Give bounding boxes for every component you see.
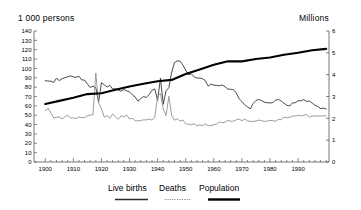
right-tick-label: 0: [332, 159, 336, 165]
left-tick-label: 20: [25, 140, 32, 146]
left-tick-label: 50: [25, 112, 32, 118]
left-tick-label: 10: [25, 150, 32, 156]
left-tick-label: 110: [22, 56, 32, 62]
x-tick-label: 1990: [291, 166, 305, 172]
right-tick-label: 1: [332, 137, 336, 143]
left-tick-label: 70: [25, 94, 32, 100]
left-tick-label: 120: [21, 47, 32, 53]
series-population: [45, 49, 326, 104]
x-tick-label: 1950: [179, 166, 193, 172]
left-tick-label: 130: [21, 38, 32, 44]
left-tick-label: 140: [21, 28, 32, 34]
left-tick-label: 90: [25, 75, 32, 81]
left-tick-label: 80: [25, 84, 32, 90]
legend-label-deaths: Deaths: [159, 183, 186, 193]
series-layer: [45, 49, 326, 126]
right-tick-label: 6: [332, 28, 336, 34]
legend-label-population: Population: [199, 183, 239, 193]
right-tick-label: 3: [332, 94, 336, 100]
x-tick-label: 1900: [39, 166, 53, 172]
left-tick-label: 30: [25, 131, 32, 137]
left-tick-label: 100: [21, 66, 32, 72]
tick-label-layer: 0102030405060708090100110120130140012345…: [21, 28, 336, 172]
x-tick-label: 1960: [207, 166, 221, 172]
legend-label-live-births: Live births: [108, 183, 147, 193]
x-tick-label: 1920: [95, 166, 109, 172]
x-tick-label: 1910: [67, 166, 81, 172]
series-deaths: [45, 73, 326, 126]
right-tick-label: 4: [332, 72, 336, 78]
right-tick-label: 2: [332, 116, 336, 122]
series-live-births: [45, 61, 326, 109]
x-tick-label: 1930: [123, 166, 137, 172]
chart-figure: 1 000 persons Millions 01020304050607080…: [0, 0, 361, 210]
left-tick-label: 60: [25, 103, 32, 109]
x-tick-label: 1940: [151, 166, 165, 172]
x-tick-label: 1980: [263, 166, 277, 172]
left-tick-label: 0: [28, 159, 32, 165]
right-tick-label: 5: [332, 50, 336, 56]
left-tick-label: 40: [25, 122, 32, 128]
x-tick-label: 1970: [235, 166, 249, 172]
line-chart-canvas: 0102030405060708090100110120130140012345…: [0, 0, 361, 210]
